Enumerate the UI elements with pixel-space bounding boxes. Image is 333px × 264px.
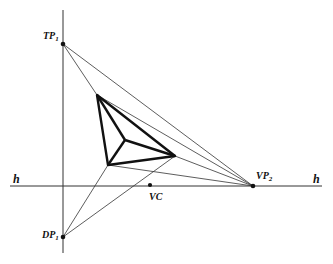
- perspective-diagram: TP1 DP1 VP2 VC h h: [0, 0, 333, 264]
- construction-line-top-vp2: [97, 95, 253, 186]
- horizon-label-left: h: [13, 173, 20, 185]
- dp1-label: DP1: [42, 230, 59, 242]
- construction-line-dp1-bottom: [63, 165, 108, 237]
- vc-label: VC: [149, 192, 162, 202]
- vp2-point: [251, 184, 256, 189]
- tp1-label: TP1: [43, 31, 59, 43]
- vp2-label: VP2: [256, 171, 272, 183]
- construction-line-tp1-cube: [63, 44, 97, 95]
- cube-outline: [97, 95, 175, 165]
- vc-point: [148, 183, 152, 187]
- tp1-point: [61, 42, 66, 47]
- horizon-label-right: h: [313, 173, 320, 185]
- dp1-point: [61, 235, 66, 240]
- construction-line-tp1-vp2: [63, 44, 253, 186]
- construction-line-right-vp2: [175, 156, 253, 186]
- construction-line-bottom-vp2: [108, 165, 253, 186]
